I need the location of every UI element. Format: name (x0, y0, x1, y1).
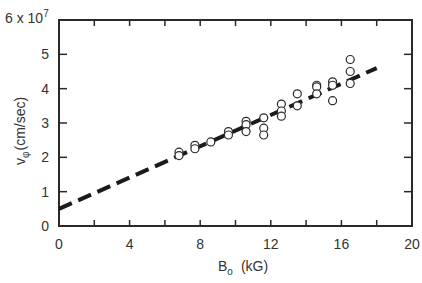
data-point (329, 97, 337, 105)
y-multiplier-label: 6 x 107 (5, 8, 49, 26)
data-point (260, 114, 268, 122)
data-point (346, 68, 354, 76)
y-tick-label: 3 (41, 115, 49, 131)
y-tick-label: 1 (41, 184, 49, 200)
x-tick-label: 12 (263, 236, 279, 252)
plot-border (59, 20, 412, 226)
y-tick-label: 2 (41, 149, 49, 165)
data-point (260, 131, 268, 139)
x-tick-label: 8 (196, 236, 204, 252)
data-point (293, 102, 301, 110)
x-tick-label: 4 (126, 236, 134, 252)
x-tick-label: 0 (55, 236, 63, 252)
data-point (346, 55, 354, 63)
data-point (329, 81, 337, 89)
data-point (242, 128, 250, 136)
scatter-chart: 048121620012345 6 x 107 Bo(kG) vφ(cm/sec… (0, 0, 422, 283)
data-point (175, 152, 183, 160)
fit-line (59, 68, 377, 209)
fit-dashed-line (59, 68, 377, 209)
data-point (293, 90, 301, 98)
y-axis-title: vφ(cm/sec) (12, 97, 31, 165)
x-tick-label: 20 (404, 236, 420, 252)
data-point (277, 112, 285, 120)
y-tick-label: 5 (41, 46, 49, 62)
data-point (346, 80, 354, 88)
tick-labels: 048121620012345 (41, 46, 420, 252)
data-point (224, 131, 232, 139)
plot-frame (59, 20, 412, 226)
x-tick-label: 16 (334, 236, 350, 252)
y-tick-label: 0 (41, 218, 49, 234)
x-axis-title: Bo(kG) (218, 258, 268, 277)
data-point (313, 90, 321, 98)
data-point (207, 138, 215, 146)
y-tick-label: 4 (41, 81, 49, 97)
axis-ticks (59, 20, 412, 226)
data-point (191, 145, 199, 153)
